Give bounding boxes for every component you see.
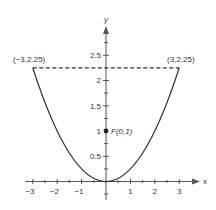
x-axis-label: x <box>203 177 207 186</box>
left-endpoint-label: (−3,2.25) <box>13 55 46 64</box>
y-axis: 0.5 1 1.5 2 2.5 y <box>90 15 109 200</box>
focus-point-marker <box>104 129 109 134</box>
x-axis-arrow-icon <box>192 179 200 185</box>
y-tick-label: 2.5 <box>90 51 102 60</box>
y-axis-arrow-icon <box>103 26 109 34</box>
x-tick-label: −3 <box>25 187 35 196</box>
y-tick-label: 0.5 <box>90 152 102 161</box>
x-tick-label: 1 <box>128 187 133 196</box>
y-tick-label: 2 <box>97 76 102 85</box>
x-tick-label: 3 <box>177 187 182 196</box>
y-tick-label: 1.5 <box>90 102 102 111</box>
parabola-chart: −3 −2 −1 1 2 3 x 0.5 1 1.5 2 2.5 y <box>0 0 216 210</box>
focus-label-text: F(0,1) <box>111 127 133 136</box>
x-tick-label: −1 <box>74 187 84 196</box>
right-endpoint-label: (3,2.25) <box>167 55 195 64</box>
focus-label: F(0,1) <box>111 127 133 136</box>
y-tick-label: 1 <box>97 127 102 136</box>
x-tick-label: 2 <box>153 187 158 196</box>
x-tick-label: −2 <box>50 187 60 196</box>
y-axis-label: y <box>103 15 109 24</box>
